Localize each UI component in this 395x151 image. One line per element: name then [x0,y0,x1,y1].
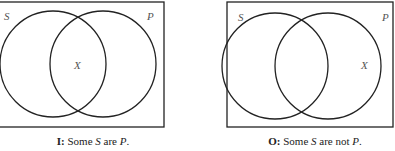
label-p: P [146,10,154,22]
universe-box [227,2,393,127]
venn-diagrams: S P X S P X [0,0,395,151]
caption-i: I: Some S are P. [38,135,148,147]
label-p: P [381,11,389,23]
x-mark: X [73,59,82,71]
caption-o: O: Some S are not P. [250,135,380,147]
x-mark: X [360,59,369,71]
label-s: S [238,11,244,23]
circle-p [50,11,156,117]
diagram-i [0,2,164,127]
label-s: S [4,10,10,22]
circle-s [0,11,106,117]
